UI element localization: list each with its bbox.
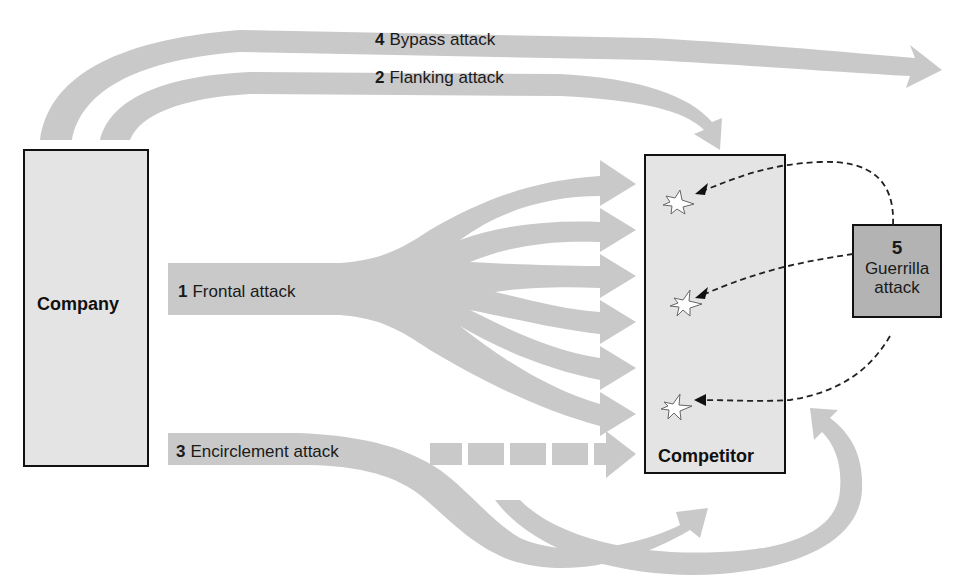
bypass-attack-number: 4: [375, 30, 384, 49]
bypass-attack-label: 4Bypass attack: [375, 31, 495, 48]
guerrilla-label: 5 Guerrilla attack: [853, 225, 941, 317]
encirclement-attack-name: Encirclement attack: [190, 442, 338, 461]
encirclement-attack-label: 3Encirclement attack: [176, 443, 339, 460]
frontal-attack-number: 1: [178, 282, 187, 301]
guerrilla-attack-number: 5: [853, 237, 941, 259]
competitor-label: Competitor: [658, 446, 754, 467]
bypass-attack-name: Bypass attack: [389, 30, 495, 49]
flanking-attack-name: Flanking attack: [389, 68, 503, 87]
guerrilla-line1: Guerrilla: [853, 259, 941, 279]
encirclement-attack-number: 3: [176, 442, 185, 461]
competitor-box: [645, 155, 785, 473]
attack-strategies-diagram: [0, 0, 962, 586]
flanking-attack-number: 2: [375, 68, 384, 87]
flanking-attack-label: 2Flanking attack: [375, 69, 504, 86]
guerrilla-line2: attack: [853, 278, 941, 298]
company-label: Company: [37, 294, 119, 315]
frontal-attack-name: Frontal attack: [192, 282, 295, 301]
frontal-attack-label: 1Frontal attack: [178, 283, 295, 300]
